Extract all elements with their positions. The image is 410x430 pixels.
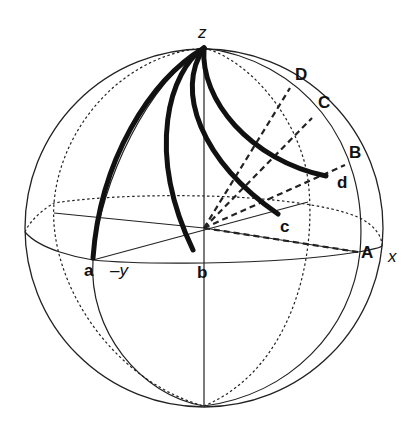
- label-d: d: [337, 173, 347, 192]
- label-C: C: [318, 93, 330, 112]
- label-B: B: [349, 143, 361, 162]
- label-a: a: [84, 261, 94, 280]
- label-A: A: [361, 243, 373, 262]
- sphere-diagram: z x –y a b A c d B C D: [0, 0, 410, 430]
- ray-C: [204, 118, 312, 228]
- label-D: D: [295, 65, 307, 84]
- label-z: z: [197, 23, 207, 42]
- label-neg-y: –y: [109, 261, 129, 280]
- label-b: b: [197, 263, 207, 282]
- arc-to-d: [204, 48, 326, 176]
- arc-to-b: [166, 48, 204, 250]
- label-x: x: [387, 247, 397, 266]
- label-c: c: [280, 217, 289, 236]
